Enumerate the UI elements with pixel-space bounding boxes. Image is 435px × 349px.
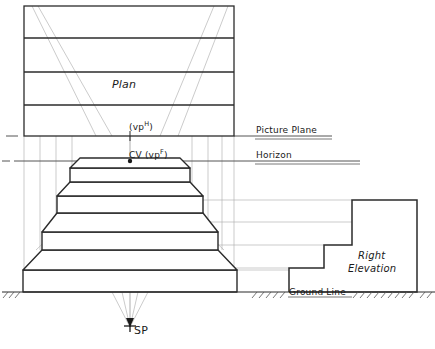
cv-close: ) — [164, 150, 168, 160]
drawing-canvas: Plan (vpH) CV (vpF) Picture Plane Horizo… — [0, 0, 435, 349]
cv-label: CV (vpF) — [129, 148, 168, 160]
pedestal-tier-2-front — [42, 232, 218, 250]
ground-hatch-left — [3, 292, 20, 298]
pedestal-tier-2-top — [42, 213, 218, 232]
pedestal-tier-4-front — [70, 168, 190, 182]
perspective-construction-svg — [0, 0, 435, 349]
right-elevation-label-line2: Elevation — [348, 263, 396, 274]
vp-h-close: ) — [149, 122, 153, 132]
plan-view-group — [24, 6, 234, 136]
right-elevation-label-line1: Right — [358, 250, 385, 261]
vp-h-text: (vp — [129, 122, 144, 132]
right-elevation-profile — [289, 200, 417, 292]
sp-ray-1 — [112, 292, 130, 327]
pedestal-tier-1-top — [23, 250, 237, 270]
picture-plane-label: Picture Plane — [256, 125, 317, 135]
plan-outline — [24, 6, 234, 136]
plan-sightline-left2 — [38, 6, 112, 136]
right-elevation-group — [289, 200, 417, 292]
vp-h-label: (vpH) — [129, 120, 153, 132]
pedestal-tier-3-front — [57, 196, 203, 213]
plan-sightline-right — [178, 6, 228, 136]
station-point-label: SP — [134, 324, 148, 337]
ground-line-left-group — [2, 292, 250, 298]
plan-sightline-left — [32, 6, 96, 136]
pedestal-tier-1-front — [23, 270, 237, 292]
sp-ray-4 — [130, 292, 148, 327]
plan-sightline-right2 — [160, 6, 214, 136]
horizon-label: Horizon — [256, 150, 292, 160]
ground-line-label: Ground Line — [289, 287, 346, 297]
pedestal-tier-3-top — [57, 182, 203, 196]
cv-text: CV (vp — [129, 150, 160, 160]
perspective-pedestal-group — [23, 158, 237, 292]
plan-label: Plan — [112, 78, 136, 91]
